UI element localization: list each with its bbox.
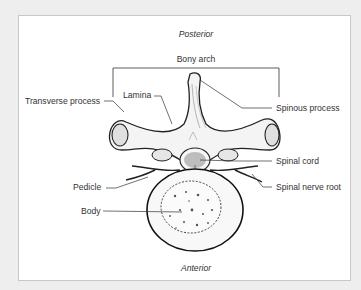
pedicle-label: Pedicle	[73, 182, 101, 192]
body-label: Body	[81, 206, 101, 216]
vertebra-diagram: Posterior Anterior Bony arch	[0, 0, 361, 290]
bony-arch-label: Bony arch	[177, 54, 216, 64]
spinal-cord-label: Spinal cord	[276, 156, 319, 166]
transverse-process-left-end	[112, 124, 128, 146]
vertebral-body	[147, 169, 243, 251]
transverse-process-right-end	[265, 124, 279, 146]
spinal-nerve-root-label: Spinal nerve root	[276, 182, 342, 192]
transverse-process-label: Transverse process	[25, 96, 100, 106]
lamina-label: Lamina	[123, 90, 151, 100]
posterior-label: Posterior	[179, 29, 215, 39]
anterior-label: Anterior	[180, 263, 212, 273]
spinous-process-label: Spinous process	[276, 103, 340, 113]
